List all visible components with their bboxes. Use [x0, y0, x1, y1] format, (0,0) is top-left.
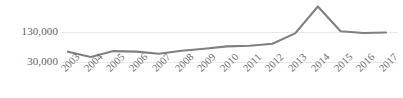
x-axis: 2003200420052006200720082009201020112012… [62, 62, 398, 98]
y-axis: 130,000 30,000 [0, 0, 58, 62]
series-line [68, 7, 386, 57]
line-chart: 130,000 30,000 2003200420052006200720082… [0, 0, 403, 98]
y-tick-label-130000: 130,000 [22, 26, 58, 37]
y-tick-label-30000: 30,000 [27, 56, 58, 67]
